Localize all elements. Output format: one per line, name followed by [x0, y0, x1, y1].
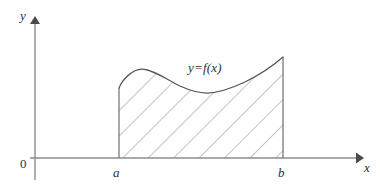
figure-graphic	[0, 0, 380, 195]
y-axis-label: y	[20, 9, 26, 22]
boundary-label-b: b	[278, 166, 285, 179]
origin-label: 0	[20, 157, 27, 170]
right-arrow-icon	[356, 153, 364, 164]
boundary-label-a: a	[113, 166, 120, 179]
function-label: y=f(x)	[188, 61, 222, 74]
y-axis	[30, 16, 40, 180]
x-axis-label: x	[364, 161, 370, 174]
up-arrow-icon	[30, 16, 40, 24]
figure-canvas: y x 0 a b y=f(x)	[0, 0, 380, 195]
